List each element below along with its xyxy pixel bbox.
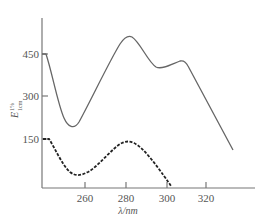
y-axis-label-sup: 1% [9, 103, 15, 111]
y-tick-label-150: 150 [23, 133, 40, 145]
y-tick-label-300: 300 [23, 90, 40, 102]
dashed-spectrum-curve [43, 139, 171, 186]
y-axis-label-sub: 1cm [17, 100, 23, 111]
y-axis-label-main: E [9, 112, 20, 119]
x-tick-label-260: 260 [77, 192, 94, 204]
x-tick-label-320: 320 [198, 192, 215, 204]
x-tick-label-280: 280 [118, 192, 135, 204]
solid-spectrum-curve [42, 36, 233, 150]
y-axis-label: E 1% 1cm [9, 100, 23, 119]
uv-spectrum-chart: 450 300 150 260 280 300 320 λ/nm E 1% 1c… [0, 0, 267, 218]
x-tick-label-300: 300 [159, 192, 176, 204]
x-axis-label: λ/nm [117, 205, 137, 216]
y-tick-label-450: 450 [23, 48, 40, 60]
